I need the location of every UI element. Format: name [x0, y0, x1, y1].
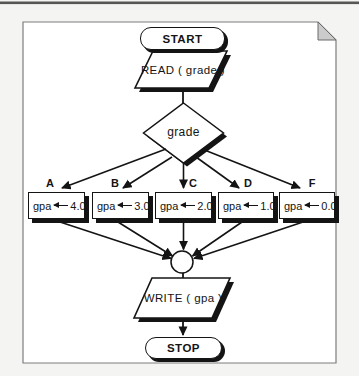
branch-letter-c: C — [185, 176, 201, 189]
scanned-page-canvas: START READ ( grade ) grade A B C D F gpa… — [0, 0, 359, 376]
read-label: READ ( grade ) — [141, 64, 225, 76]
read-step: READ ( grade ) — [136, 59, 230, 80]
assign-target: gpa — [223, 200, 241, 212]
write-step: WRITE ( gpa ) — [137, 287, 229, 308]
assign-arrow-icon — [118, 205, 132, 207]
assign-arrow-icon — [54, 205, 68, 207]
assign-arrow-icon — [244, 205, 258, 207]
assign-box-d: gpa 1.0 — [218, 192, 274, 219]
branch-letter-d: D — [240, 176, 256, 189]
branch-letter-f: F — [304, 176, 320, 189]
assign-box-b: gpa 3.0 — [92, 192, 149, 219]
assign-box-f: gpa 0.0 — [279, 192, 335, 219]
branch-letter-a: A — [42, 176, 58, 189]
assign-target: gpa — [97, 200, 115, 212]
decision-label: grade — [167, 125, 200, 139]
assign-box-c: gpa 2.0 — [155, 192, 212, 219]
assign-value: 4.0 — [70, 200, 85, 212]
start-label: START — [163, 33, 203, 45]
assign-target: gpa — [160, 200, 178, 212]
assign-value: 0.0 — [321, 200, 336, 212]
start-terminal: START — [140, 27, 225, 50]
stop-label: STOP — [167, 342, 200, 354]
assign-value: 1.0 — [260, 200, 275, 212]
assign-box-a: gpa 4.0 — [28, 192, 85, 219]
assign-arrow-icon — [305, 205, 319, 207]
connector-circle — [171, 251, 193, 273]
assign-arrow-icon — [181, 205, 195, 207]
top-rule — [0, 2, 359, 5]
branch-letter-b: B — [107, 176, 123, 189]
assign-value: 3.0 — [134, 200, 149, 212]
stop-terminal: STOP — [145, 337, 222, 359]
decision-step: grade — [143, 124, 224, 140]
assign-target: gpa — [33, 200, 51, 212]
write-label: WRITE ( gpa ) — [144, 292, 223, 304]
assign-value: 2.0 — [197, 200, 212, 212]
page-fold-corner-icon — [318, 22, 336, 40]
assign-target: gpa — [284, 200, 302, 212]
